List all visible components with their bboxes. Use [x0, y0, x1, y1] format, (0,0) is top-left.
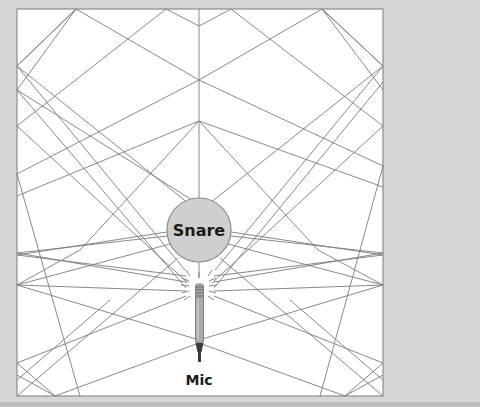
- diagram-canvas: Snare Mic: [0, 0, 480, 407]
- reflection-diagram: Snare Mic: [0, 0, 480, 407]
- mic-label: Mic: [185, 372, 212, 388]
- snare-drum: Snare: [167, 198, 231, 262]
- snare-label: Snare: [173, 221, 226, 240]
- bottom-band: [0, 402, 480, 407]
- mic-cable: [198, 352, 201, 362]
